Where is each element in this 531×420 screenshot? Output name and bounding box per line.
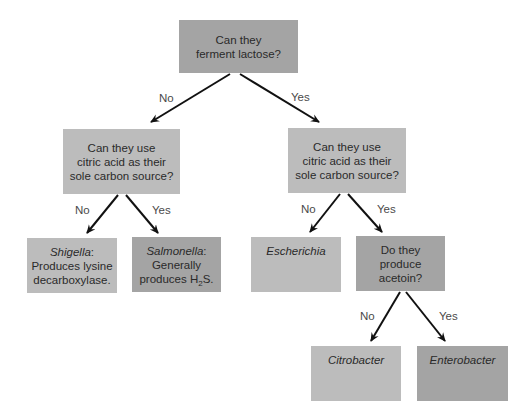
- node-text: Generally: [152, 258, 201, 272]
- node-text: sole carbon source?: [70, 169, 174, 183]
- node-text: Can they: [215, 33, 261, 47]
- edge-label-yes: Yes: [377, 203, 396, 215]
- h2s-suffix: S.: [203, 273, 214, 285]
- node-citrobacter: Citrobacter: [311, 346, 401, 401]
- genus-name: Enterobacter: [430, 353, 496, 367]
- node-escherichia: Escherichia: [251, 237, 341, 292]
- edge-label-no: No: [159, 92, 174, 104]
- node-enterobacter: Enterobacter: [417, 346, 508, 401]
- edge-label-yes: Yes: [152, 204, 171, 216]
- h2s-prefix: produces H: [139, 273, 198, 285]
- node-citric-acid-right: Can they use citric acid as their sole c…: [288, 128, 406, 193]
- node-citric-acid-left: Can they use citric acid as their sole c…: [63, 129, 180, 194]
- node-acetoin: Do they produce acetoin?: [356, 236, 445, 291]
- edge-label-no: No: [301, 203, 316, 215]
- node-text: Can they use: [313, 140, 381, 154]
- genus-name: Shigella: [50, 246, 91, 258]
- node-ferment-lactose: Can they ferment lactose?: [179, 20, 298, 73]
- node-text: decarboxylase.: [33, 273, 110, 287]
- genus-name: Escherichia: [266, 244, 325, 258]
- node-text: Do they: [381, 243, 421, 257]
- node-shigella: Shigella: Produces lysine decarboxylase.: [27, 238, 117, 293]
- node-text: produces H2S.: [139, 272, 213, 291]
- node-salmonella: Salmonella: Generally produces H2S.: [132, 237, 221, 292]
- node-text: ferment lactose?: [196, 47, 281, 61]
- node-text: produce: [380, 257, 422, 271]
- node-text: Produces lysine: [31, 259, 112, 273]
- edge-label-yes: Yes: [291, 91, 310, 103]
- genus-name: Salmonella: [146, 245, 203, 257]
- node-text: citric acid as their: [77, 155, 166, 169]
- edge-label-no: No: [360, 310, 375, 322]
- node-text: acetoin?: [379, 271, 422, 285]
- edge-label-no: No: [75, 204, 90, 216]
- node-text: Can they use: [88, 141, 156, 155]
- node-text: citric acid as their: [303, 154, 392, 168]
- colon: :: [91, 246, 94, 258]
- node-text: sole carbon source?: [295, 168, 399, 182]
- colon: :: [203, 245, 206, 257]
- edge-label-yes: Yes: [439, 310, 458, 322]
- genus-name: Citrobacter: [328, 353, 384, 367]
